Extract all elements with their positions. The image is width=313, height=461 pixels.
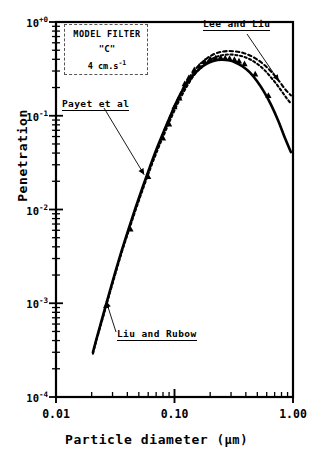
annotation-arrow-payet-et-al-head — [139, 168, 145, 175]
legend-velocity-exponent: -1 — [118, 59, 126, 67]
legend-line-1: MODEL FILTER — [65, 29, 149, 39]
y-axis-tick-label: 10-4 — [4, 390, 48, 404]
y-axis-tick-label: 10+0 — [4, 15, 48, 29]
chart-figure: Penetration Particle diameter (µm) MODEL… — [0, 0, 313, 461]
data-point-marker — [227, 55, 233, 61]
data-point-marker — [241, 61, 247, 67]
y-axis-tick-label: 10-1 — [4, 109, 48, 123]
x-axis-label-text: Particle diameter — [65, 432, 208, 447]
y-axis-tick-label: 10-3 — [4, 296, 48, 310]
legend-line-2: "C" — [65, 44, 149, 54]
annotation-payet-et-al: Payet et al — [62, 98, 129, 111]
data-point-marker — [252, 71, 258, 77]
annotation-liu-and-rubow: Liu and Rubow — [117, 328, 197, 341]
legend-line-3: 4 cm.s-1 — [65, 59, 149, 71]
model-filter-legend-box: MODEL FILTER "C" 4 cm.s-1 — [64, 24, 148, 75]
legend-velocity-value: 4 cm.s — [88, 61, 119, 71]
x-axis-tick-label: 0.10 — [147, 407, 203, 421]
y-axis-tick-label: 10-2 — [4, 203, 48, 217]
data-point-marker — [231, 56, 237, 62]
x-axis-unit: (µm) — [217, 433, 248, 447]
annotation-arrow-payet-et-al — [104, 108, 144, 175]
x-axis-tick-label: 0.01 — [28, 407, 84, 421]
data-point-marker — [236, 58, 242, 64]
x-axis-label: Particle diameter (µm) — [0, 432, 313, 447]
annotation-lee-and-liu: Lee and Liu — [203, 18, 270, 31]
x-axis-tick-label: 1.00 — [265, 407, 313, 421]
